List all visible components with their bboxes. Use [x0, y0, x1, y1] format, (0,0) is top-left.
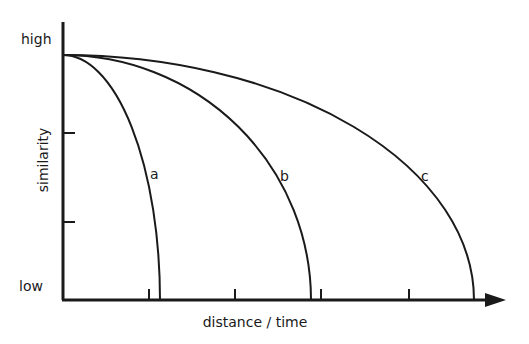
curve-label-c: c [421, 168, 429, 184]
y-label-low: low [19, 278, 43, 294]
similarity-decay-diagram: high low similarity distance / time a b … [0, 0, 529, 344]
curve-label-a: a [150, 166, 159, 182]
x-axis-title: distance / time [203, 314, 308, 330]
x-axis-arrow-icon [485, 293, 506, 307]
curve-a [63, 55, 160, 300]
curve-c [63, 55, 474, 300]
y-axis-title: similarity [35, 128, 51, 193]
curve-b [63, 55, 311, 300]
curve-label-b: b [280, 168, 289, 184]
y-label-high: high [21, 31, 52, 47]
